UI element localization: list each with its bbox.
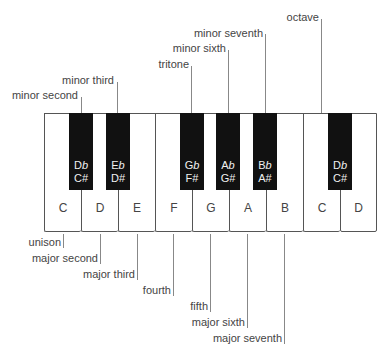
key-label: C xyxy=(45,201,81,215)
sharp-name: D# xyxy=(106,172,130,185)
interval-label-tritone: tritone xyxy=(158,58,189,70)
black-key-ab-gsharp[interactable]: Ab G# xyxy=(216,113,240,190)
black-key-gb-fsharp[interactable]: Gb F# xyxy=(180,113,204,190)
key-label: G xyxy=(193,201,229,215)
interval-label-major-second: major second xyxy=(32,252,98,264)
leader-line-unison xyxy=(63,234,64,248)
leader-line-major-seventh xyxy=(284,234,285,344)
piano-keyboard: C D E F G A B C D Db C# Eb D# Gb F# Ab G… xyxy=(44,113,377,232)
black-key-eb-dsharp[interactable]: Eb D# xyxy=(106,113,130,190)
interval-label-fourth: fourth xyxy=(143,284,171,296)
key-label: A xyxy=(230,201,266,215)
sharp-name: F# xyxy=(180,172,204,185)
leader-line-major-third xyxy=(137,234,138,280)
key-label: B xyxy=(267,201,303,215)
black-key-db-csharp[interactable]: Db C# xyxy=(69,113,93,190)
leader-line-fourth xyxy=(173,234,174,296)
interval-label-minor-sixth: minor sixth xyxy=(173,42,226,54)
key-label: F xyxy=(156,201,192,215)
sharp-name: A# xyxy=(253,172,277,185)
leader-line-minor-second xyxy=(81,97,82,113)
leader-line-minor-seventh xyxy=(265,34,266,113)
leader-line-minor-sixth xyxy=(228,50,229,113)
sharp-name: C# xyxy=(69,172,93,185)
black-key-db-csharp-high[interactable]: Db C# xyxy=(328,113,352,190)
interval-label-octave: octave xyxy=(287,11,319,23)
interval-label-major-sixth: major sixth xyxy=(192,316,245,328)
leader-line-octave xyxy=(321,19,322,113)
flat-name: Db xyxy=(328,159,352,172)
interval-label-major-seventh: major seventh xyxy=(213,332,282,344)
flat-name: Gb xyxy=(180,159,204,172)
interval-label-minor-seventh: minor seventh xyxy=(194,27,263,39)
leader-line-major-second xyxy=(100,234,101,264)
flat-name: Ab xyxy=(216,159,240,172)
sharp-name: G# xyxy=(216,172,240,185)
sharp-name: C# xyxy=(328,172,352,185)
interval-label-fifth: fifth xyxy=(190,300,208,312)
key-label: E xyxy=(119,201,155,215)
leader-line-minor-third xyxy=(117,82,118,113)
black-key-bb-asharp[interactable]: Bb A# xyxy=(253,113,277,190)
leader-line-tritone xyxy=(191,66,192,113)
interval-label-minor-third: minor third xyxy=(62,74,114,86)
interval-label-minor-second: minor second xyxy=(12,89,78,101)
leader-line-fifth xyxy=(210,234,211,312)
flat-name: Bb xyxy=(253,159,277,172)
key-label: D xyxy=(341,201,376,215)
key-label: C xyxy=(304,201,340,215)
interval-label-major-third: major third xyxy=(83,268,135,280)
flat-name: Eb xyxy=(106,159,130,172)
flat-name: Db xyxy=(69,159,93,172)
interval-label-unison: unison xyxy=(29,236,61,248)
key-label: D xyxy=(82,201,118,215)
leader-line-major-sixth xyxy=(247,234,248,328)
